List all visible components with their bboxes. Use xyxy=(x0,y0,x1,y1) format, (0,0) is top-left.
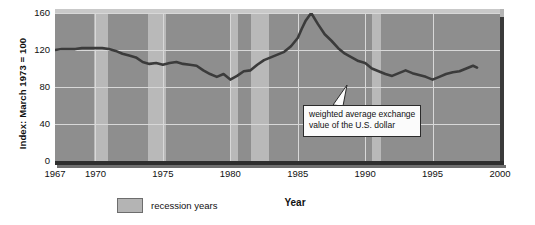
annotation-line-2: value of the U.S. dollar xyxy=(309,120,416,131)
annotation-callout: weighted average exchange value of the U… xyxy=(303,105,421,137)
y-tick-label: 80 xyxy=(24,82,50,91)
y-axis-ticks: 04080120160 xyxy=(22,0,50,225)
x-axis-title: Year xyxy=(0,197,535,208)
y-tick-label: 0 xyxy=(24,156,50,165)
x-axis-ticks: 19671970197519801985199019952000 xyxy=(0,168,535,182)
x-tick-label: 1990 xyxy=(347,168,383,179)
x-tick-label: 2000 xyxy=(482,168,518,179)
y-tick-label: 40 xyxy=(24,119,50,128)
y-tick-label: 160 xyxy=(24,8,50,17)
x-tick-label: 1980 xyxy=(212,168,248,179)
annotation-line-1: weighted average exchange xyxy=(309,109,416,120)
plot-area xyxy=(55,13,500,161)
x-tick-label: 1970 xyxy=(77,168,113,179)
x-tick-label: 1975 xyxy=(145,168,181,179)
y-tick-label: 120 xyxy=(24,45,50,54)
x-tick-label: 1995 xyxy=(415,168,451,179)
x-tick-label: 1967 xyxy=(37,168,73,179)
series-line xyxy=(55,13,500,161)
x-tick-label: 1985 xyxy=(280,168,316,179)
series-polyline xyxy=(55,13,477,80)
chart-figure: Index: March 1973 = 100 04080120160 weig… xyxy=(0,0,535,225)
